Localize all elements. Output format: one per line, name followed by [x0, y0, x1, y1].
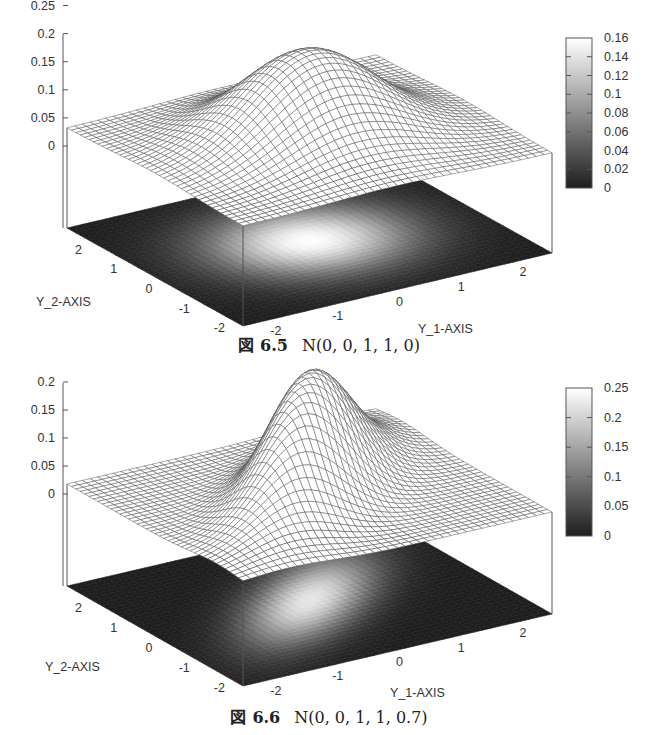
colorbar-tick-label: 0.2 [604, 411, 621, 425]
z-axis: 00.050.10.150.20.25 [31, 368, 68, 586]
y2-tick-label: -2 [214, 681, 225, 695]
y2-tick-label: 1 [110, 262, 117, 276]
surface-mesh [67, 369, 552, 581]
z-tick-label: 0.05 [31, 459, 55, 473]
z-tick-label: 0 [48, 139, 55, 153]
colorbar-tick-label: 0.14 [604, 50, 628, 64]
z-tick-label: 0.1 [38, 83, 55, 97]
z-tick-label: 0.25 [31, 0, 55, 13]
z-tick-label: 0.05 [31, 111, 55, 125]
z-tick-label: 0 [48, 487, 55, 501]
figure-formula: N(0, 0, 1, 1, 0) [302, 336, 420, 355]
surface-plot-6-6: 00.050.10.150.20.25-2-1012-2-1012Y_2-AXI… [0, 368, 658, 708]
y2-axis-label: Y_2-AXIS [36, 295, 91, 309]
figure-6-6: 00.050.10.150.20.25-2-1012-2-1012Y_2-AXI… [0, 368, 658, 735]
z-axis: 00.050.10.150.20.25 [31, 0, 68, 228]
z-tick-label: 0.2 [38, 27, 55, 41]
surface-mesh [67, 48, 552, 226]
z-tick-label: 0.2 [38, 375, 55, 389]
y1-tick-label: 1 [458, 641, 465, 655]
figure-number: 6.6 [252, 708, 280, 727]
colorbar-tick-label: 0.05 [604, 499, 628, 513]
figure-6-5: 00.050.10.150.20.25-2-1012-2-1012Y_2-AXI… [0, 0, 658, 368]
colorbar-tick-label: 0.12 [604, 69, 628, 83]
colorbar-tick-label: 0.1 [604, 470, 621, 484]
y2-tick-label: 1 [110, 621, 117, 635]
colorbar-tick-label: 0.02 [604, 162, 628, 176]
figure-caption: 図6.6N(0, 0, 1, 1, 0.7) [0, 704, 658, 728]
colorbar-tick-label: 0 [604, 529, 611, 543]
figure-number: 6.5 [260, 336, 288, 355]
colorbar-tick-label: 0.08 [604, 106, 628, 120]
y1-axis-label: Y_1-AXIS [390, 686, 445, 700]
z-tick-label: 0.15 [31, 403, 55, 417]
surface-plot-6-5: 00.050.10.150.20.25-2-1012-2-1012Y_2-AXI… [0, 0, 658, 340]
z-tick-label: 0.15 [31, 55, 55, 69]
y2-tick-label: -1 [179, 302, 190, 316]
y1-tick-label: 0 [396, 655, 403, 669]
figure-mark: 図 [238, 336, 254, 355]
y2-axis-label: Y_2-AXIS [45, 660, 100, 674]
colorbar-gradient [566, 388, 592, 536]
figure-caption: 図6.5N(0, 0, 1, 1, 0) [0, 332, 658, 356]
y1-tick-label: 0 [396, 295, 403, 309]
y2-tick-label: 0 [146, 282, 153, 296]
figure-mark: 図 [230, 708, 246, 727]
y2-tick-label: -1 [179, 661, 190, 675]
colorbar-tick-label: 0.06 [604, 125, 628, 139]
y1-tick-label: -1 [332, 309, 343, 323]
figure-formula: N(0, 0, 1, 1, 0.7) [294, 708, 427, 727]
y1-tick-label: -1 [332, 669, 343, 683]
colorbar-tick-label: 0.25 [604, 381, 628, 395]
z-tick-label: 0.1 [38, 431, 55, 445]
colorbar: 00.050.10.150.20.25 [566, 381, 628, 543]
colorbar-tick-label: 0.16 [604, 31, 628, 45]
y2-tick-label: 2 [75, 243, 82, 257]
y1-tick-label: 1 [458, 280, 465, 294]
colorbar-tick-label: 0 [604, 181, 611, 195]
colorbar-tick-label: 0.04 [604, 144, 628, 158]
y2-tick-label: 0 [146, 641, 153, 655]
y2-tick-label: 2 [75, 601, 82, 615]
y1-tick-label: -2 [270, 684, 281, 698]
colorbar: 00.020.040.060.080.10.120.140.16 [566, 31, 628, 195]
colorbar-tick-label: 0.15 [604, 440, 628, 454]
y1-tick-label: 2 [520, 265, 527, 279]
y1-tick-label: 2 [520, 626, 527, 640]
colorbar-tick-label: 0.1 [604, 87, 621, 101]
